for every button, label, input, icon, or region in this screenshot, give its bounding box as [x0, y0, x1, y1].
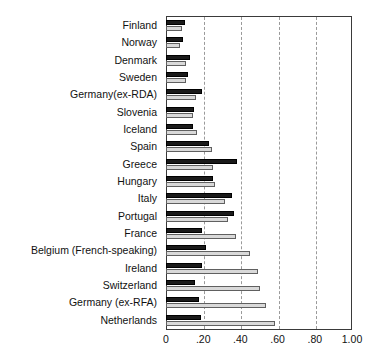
bar-series-dark [166, 72, 188, 77]
bar-row [166, 225, 352, 242]
category-label: Italy [0, 190, 162, 207]
bar-series-light [166, 217, 228, 222]
bar-row [166, 294, 352, 311]
bar-series-dark [166, 55, 190, 60]
bar-series-dark [166, 159, 237, 164]
bar-chart: FinlandNorwayDenmarkSwedenGermany(ex-RDA… [0, 0, 374, 354]
bar-row [166, 277, 352, 294]
bar-row [166, 173, 352, 190]
category-label: Netherlands [0, 312, 162, 329]
bar-series-light [166, 234, 236, 239]
bar-series-dark [166, 280, 195, 285]
bar-series-light [166, 61, 186, 66]
category-label: Denmark [0, 52, 162, 69]
bar-series-dark [166, 176, 213, 181]
bar-series-dark [166, 245, 206, 250]
bar-series-dark [166, 124, 193, 129]
category-label: Switzerland [0, 277, 162, 294]
bar-series-dark [166, 211, 234, 216]
bar-series-light [166, 182, 215, 187]
bar-row [166, 156, 352, 173]
bar-series-dark [166, 89, 202, 94]
bar-series-dark [166, 107, 194, 112]
bar-series-light [166, 113, 193, 118]
x-tick-label: .60 [270, 332, 285, 346]
category-label: Finland [0, 17, 162, 34]
bar-row [166, 17, 352, 34]
bar-series-light [166, 251, 250, 256]
bar-series-light [166, 165, 213, 170]
bar-series-light [166, 78, 186, 83]
bar-series-light [166, 286, 260, 291]
bar-series-light [166, 95, 196, 100]
bar-row [166, 86, 352, 103]
category-label: Germany(ex-RDA) [0, 86, 162, 103]
category-label: Hungary [0, 173, 162, 190]
category-label: Iceland [0, 121, 162, 138]
bar-row [166, 104, 352, 121]
category-label: Belgium (French-speaking) [0, 242, 162, 259]
category-label: Sweden [0, 69, 162, 86]
bar-series-dark [166, 141, 209, 146]
bar-series-dark [166, 228, 202, 233]
category-label: Germany (ex-RFA) [0, 294, 162, 311]
bar-series-container [166, 17, 352, 329]
bar-row [166, 260, 352, 277]
bar-series-light [166, 303, 266, 308]
bar-row [166, 121, 352, 138]
category-label: Slovenia [0, 104, 162, 121]
category-axis-labels: FinlandNorwayDenmarkSwedenGermany(ex-RDA… [0, 17, 162, 329]
bar-series-dark [166, 37, 183, 42]
bar-series-light [166, 130, 197, 135]
category-label: France [0, 225, 162, 242]
x-tick-label: .40 [233, 332, 248, 346]
bar-series-light [166, 199, 225, 204]
x-axis-tick-labels: 0.20.40.60.801.00 [166, 332, 352, 348]
bar-row [166, 34, 352, 51]
bar-series-dark [166, 263, 202, 268]
bar-series-light [166, 147, 212, 152]
bar-series-dark [166, 297, 199, 302]
category-label: Spain [0, 138, 162, 155]
bar-row [166, 52, 352, 69]
category-label: Ireland [0, 260, 162, 277]
bar-series-light [166, 43, 180, 48]
x-tick-label: 1.00 [342, 332, 362, 346]
bar-series-light [166, 26, 182, 31]
bar-series-dark [166, 20, 185, 25]
bar-row [166, 138, 352, 155]
category-label: Portugal [0, 208, 162, 225]
x-tick-label: .80 [307, 332, 322, 346]
bar-series-dark [166, 193, 232, 198]
bar-row [166, 208, 352, 225]
bar-row [166, 242, 352, 259]
x-tick-label: .20 [196, 332, 211, 346]
bar-row [166, 190, 352, 207]
bar-series-light [166, 321, 275, 326]
category-label: Greece [0, 156, 162, 173]
bar-series-dark [166, 315, 201, 320]
bar-row [166, 312, 352, 329]
bar-series-light [166, 269, 258, 274]
x-tick-label: 0 [163, 332, 169, 346]
bar-row [166, 69, 352, 86]
category-label: Norway [0, 34, 162, 51]
